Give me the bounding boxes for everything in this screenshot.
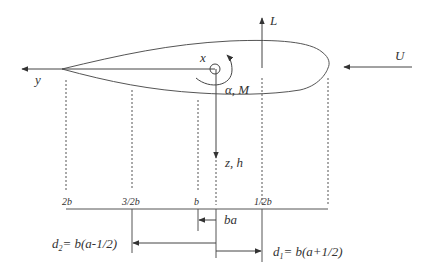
airfoil-diagram: y x α, M z, h L U 2b 3/2b b 1/2b ba d2= … xyxy=(0,0,433,276)
station-label-b: b xyxy=(194,196,199,207)
plunge-label: z, h xyxy=(224,155,243,170)
airfoil-outline xyxy=(62,40,329,94)
station-label-3-2b: 3/2b xyxy=(121,196,140,207)
d2-label: d2= b(a-1/2) xyxy=(52,236,117,253)
ba-label: ba xyxy=(224,212,238,227)
x-axis-label: x xyxy=(199,50,206,65)
y-axis-label: y xyxy=(33,72,41,87)
station-label-1-2b: 1/2b xyxy=(254,196,272,207)
freestream-label: U xyxy=(395,48,406,63)
lift-label: L xyxy=(269,13,277,28)
station-label-2b: 2b xyxy=(62,196,72,207)
pitch-label: α, M xyxy=(225,82,250,97)
d1-label: d1= b(a+1/2) xyxy=(273,244,343,261)
station-guides xyxy=(66,78,328,205)
